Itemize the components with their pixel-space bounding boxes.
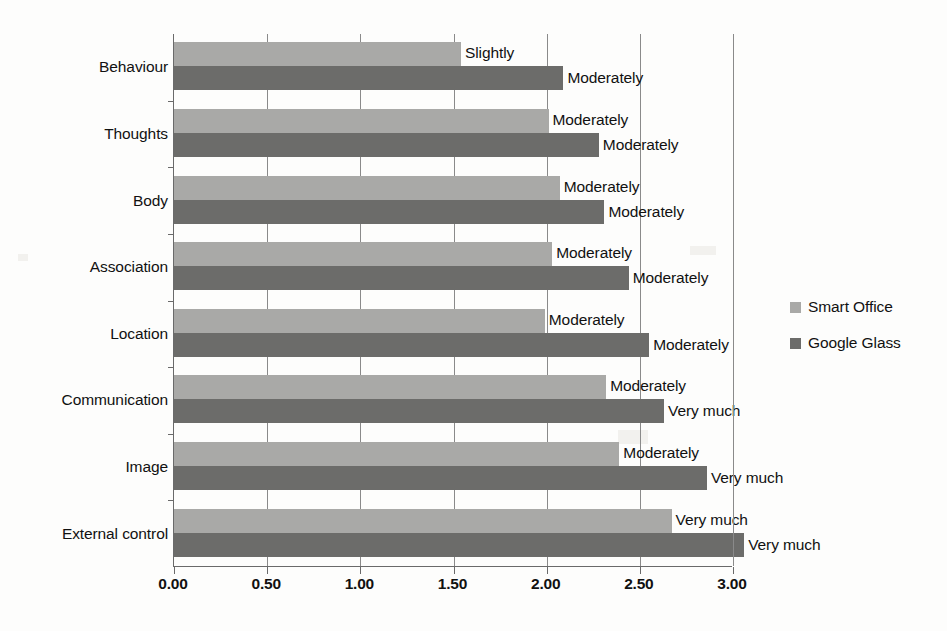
bar-smart-office[interactable] — [174, 442, 619, 466]
y-axis-tick — [168, 167, 174, 168]
bar-smart-office[interactable] — [174, 509, 672, 533]
bar-value-label: Slightly — [465, 45, 514, 61]
legend-swatch-icon — [790, 302, 801, 313]
bar-chart: BehaviourThoughtsBodyAssociationLocation… — [0, 0, 947, 631]
x-axis-tick-label: 1.50 — [438, 575, 467, 593]
bar-google-glass[interactable] — [174, 333, 649, 357]
legend-item-0[interactable]: Smart Office — [790, 298, 940, 316]
x-axis-tick-label: 2.00 — [531, 575, 560, 593]
y-axis-category-label: Association — [3, 258, 168, 276]
chart-legend: Smart Office Google Glass — [790, 298, 940, 370]
bar-smart-office[interactable] — [174, 42, 461, 66]
y-axis-category-label: External control — [3, 525, 168, 543]
bar-google-glass[interactable] — [174, 266, 629, 290]
y-axis-tick — [168, 367, 174, 368]
y-axis-category-labels: BehaviourThoughtsBodyAssociationLocation… — [0, 34, 168, 567]
x-axis-tick — [733, 567, 734, 574]
y-axis-tick — [168, 234, 174, 235]
y-axis-category-label: Body — [3, 192, 168, 210]
y-axis-category-label: Thoughts — [3, 125, 168, 143]
bar-smart-office[interactable] — [174, 109, 549, 133]
bar-value-label: Very much — [748, 537, 820, 553]
bar-google-glass[interactable] — [174, 533, 744, 557]
bar-value-label: Very much — [711, 470, 783, 486]
y-axis-category-label: Image — [3, 458, 168, 476]
bar-smart-office[interactable] — [174, 176, 560, 200]
x-axis-tick — [267, 567, 268, 574]
bar-value-label: Moderately — [603, 137, 679, 153]
x-axis-tick — [640, 567, 641, 574]
bar-value-label: Moderately — [653, 337, 729, 353]
legend-swatch-icon — [790, 338, 801, 349]
bar-google-glass[interactable] — [174, 466, 707, 490]
x-axis-tick — [360, 567, 361, 574]
legend-label: Google Glass — [808, 334, 901, 352]
y-axis-tick — [168, 301, 174, 302]
x-axis-tick-label: 3.00 — [717, 575, 746, 593]
bar-value-label: Moderately — [567, 70, 643, 86]
plot-area: SlightlyModeratelyModeratelyModeratelyMo… — [173, 34, 732, 567]
x-axis-tick-label: 2.50 — [624, 575, 653, 593]
y-axis-category-label: Behaviour — [3, 58, 168, 76]
x-axis-tick — [547, 567, 548, 574]
bar-value-label: Moderately — [623, 445, 699, 461]
bar-value-label: Very much — [676, 512, 748, 528]
bar-value-label: Moderately — [556, 245, 632, 261]
x-axis-tick-labels: 0.000.501.001.502.002.503.00 — [0, 575, 947, 603]
legend-label: Smart Office — [808, 298, 893, 316]
bar-google-glass[interactable] — [174, 399, 664, 423]
bar-google-glass[interactable] — [174, 66, 563, 90]
y-axis-tick — [168, 500, 174, 501]
bar-value-label: Moderately — [564, 179, 640, 195]
bar-value-label: Moderately — [610, 378, 686, 394]
y-axis-category-label: Communication — [3, 391, 168, 409]
x-axis-tick — [174, 567, 175, 574]
x-axis-tick — [454, 567, 455, 574]
y-axis-tick — [168, 434, 174, 435]
bar-google-glass[interactable] — [174, 200, 604, 224]
plot-right-border — [733, 34, 734, 566]
x-axis-tick-label: 1.00 — [345, 575, 374, 593]
bar-smart-office[interactable] — [174, 375, 606, 399]
bar-value-label: Moderately — [633, 270, 709, 286]
bar-value-label: Moderately — [608, 204, 684, 220]
y-axis-category-label: Location — [3, 325, 168, 343]
bar-smart-office[interactable] — [174, 309, 545, 333]
bar-smart-office[interactable] — [174, 242, 552, 266]
y-axis-tick — [168, 101, 174, 102]
bar-google-glass[interactable] — [174, 133, 599, 157]
x-axis-tick-label: 0.50 — [251, 575, 280, 593]
bar-value-label: Very much — [668, 403, 740, 419]
legend-item-1[interactable]: Google Glass — [790, 334, 940, 352]
x-axis-tick-label: 0.00 — [158, 575, 187, 593]
bar-value-label: Moderately — [553, 112, 629, 128]
bar-value-label: Moderately — [549, 312, 625, 328]
